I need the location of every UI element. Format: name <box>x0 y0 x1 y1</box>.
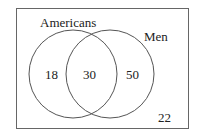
men-circle <box>66 30 154 118</box>
intersection-value: 30 <box>83 67 96 82</box>
americans-only-value: 18 <box>45 67 58 82</box>
venn-diagram: Americans Men 18 30 50 22 <box>0 0 201 137</box>
men-label: Men <box>144 29 168 44</box>
americans-label: Americans <box>40 15 96 30</box>
outside-value: 22 <box>158 110 171 125</box>
americans-circle <box>29 30 117 118</box>
men-only-value: 50 <box>126 67 139 82</box>
